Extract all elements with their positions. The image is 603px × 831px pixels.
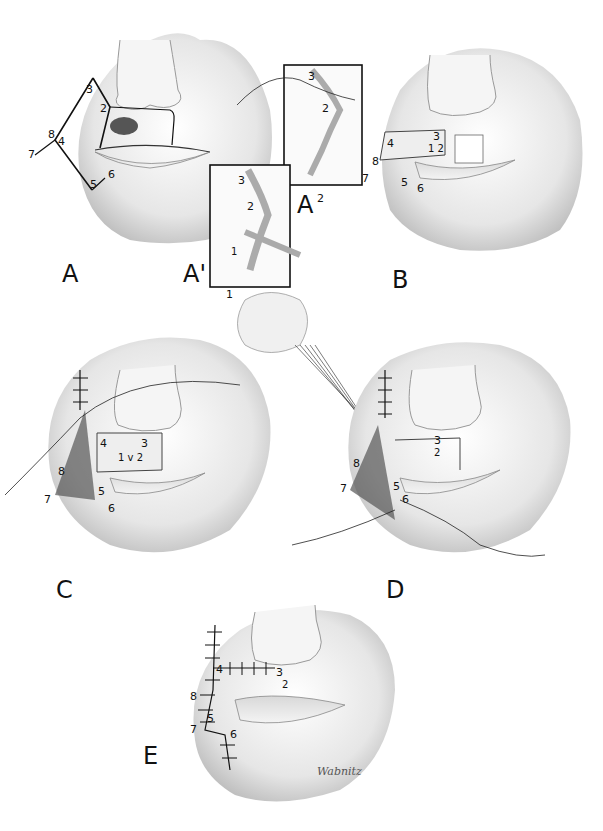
svg-text:8: 8 xyxy=(48,128,55,141)
panel-a-prime-subscript: 1 xyxy=(226,288,233,301)
panel-label-c: C xyxy=(56,578,73,602)
panel-b: 3 1 2 4 8 7 5 6 xyxy=(362,48,583,251)
svg-text:4: 4 xyxy=(58,135,65,148)
svg-text:6: 6 xyxy=(402,493,409,506)
surgical-illustration: 3 2 8 4 7 5 6 3 2 3 2 1 3 1 2 4 8 7 5 6 xyxy=(0,0,603,831)
svg-text:5: 5 xyxy=(401,176,408,189)
panel-e: 4 3 2 8 5 7 6 xyxy=(190,605,395,801)
svg-text:1: 1 xyxy=(231,246,237,257)
svg-text:3: 3 xyxy=(433,130,440,143)
svg-text:1 2: 1 2 xyxy=(428,143,444,154)
svg-text:7: 7 xyxy=(44,493,51,506)
svg-text:3: 3 xyxy=(238,174,245,187)
svg-text:1 v 2: 1 v 2 xyxy=(118,452,143,463)
svg-text:5: 5 xyxy=(207,712,214,725)
panel-label-a: A xyxy=(62,262,78,286)
svg-text:2: 2 xyxy=(322,102,329,115)
panel-label-b: B xyxy=(392,268,408,292)
svg-text:7: 7 xyxy=(190,723,197,736)
svg-text:7: 7 xyxy=(362,172,369,185)
svg-text:3: 3 xyxy=(141,437,148,450)
svg-text:2: 2 xyxy=(247,200,254,213)
svg-text:8: 8 xyxy=(58,465,65,478)
svg-text:5: 5 xyxy=(393,480,400,493)
svg-text:2: 2 xyxy=(282,679,288,690)
svg-text:3: 3 xyxy=(434,434,441,447)
svg-text:3: 3 xyxy=(308,70,315,83)
svg-text:4: 4 xyxy=(100,437,107,450)
svg-text:3: 3 xyxy=(86,83,93,96)
svg-text:6: 6 xyxy=(108,502,115,515)
svg-text:4: 4 xyxy=(387,137,394,150)
panel-c: 4 3 1 v 2 8 7 5 6 xyxy=(5,338,271,553)
panel-d: 3 2 8 7 5 6 xyxy=(292,342,571,556)
panel-label-e: E xyxy=(143,744,158,768)
svg-text:3: 3 xyxy=(276,666,283,679)
svg-text:2: 2 xyxy=(100,102,107,115)
artist-signature: Wabnitz xyxy=(317,765,362,778)
panel-label-d: D xyxy=(386,578,404,602)
svg-text:7: 7 xyxy=(28,148,35,161)
panel-a2-superscript: 2 xyxy=(317,192,324,205)
svg-text:8: 8 xyxy=(372,155,379,168)
svg-text:6: 6 xyxy=(108,168,115,181)
panel-label-a-prime: A' xyxy=(183,262,206,286)
svg-text:8: 8 xyxy=(353,457,360,470)
svg-text:6: 6 xyxy=(230,728,237,741)
svg-text:6: 6 xyxy=(417,182,424,195)
svg-text:7: 7 xyxy=(340,482,347,495)
svg-text:2: 2 xyxy=(434,447,440,458)
svg-text:4: 4 xyxy=(216,663,223,676)
svg-text:8: 8 xyxy=(190,690,197,703)
illustration-canvas: 3 2 8 4 7 5 6 3 2 3 2 1 3 1 2 4 8 7 5 6 xyxy=(0,0,603,831)
svg-text:5: 5 xyxy=(98,485,105,498)
svg-text:5: 5 xyxy=(90,178,97,191)
inset-a1: 3 2 1 xyxy=(210,165,300,287)
panel-label-a2: A xyxy=(297,193,313,217)
